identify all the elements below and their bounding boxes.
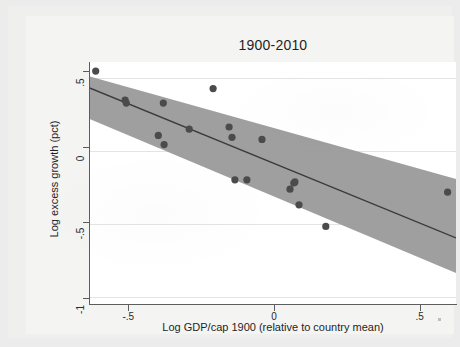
data-point <box>444 189 451 196</box>
data-point <box>155 132 162 139</box>
y-axis-title: Log excess growth (pct) <box>48 89 60 269</box>
scan-speck <box>438 318 441 321</box>
regression-fit-line <box>89 88 456 238</box>
data-point <box>186 126 193 133</box>
screenshot-root: 1900-2010 .50-.5-1 -.50.5 Log ex <box>0 0 460 347</box>
data-point <box>226 123 233 130</box>
data-point <box>228 134 235 141</box>
chart-figure: 1900-2010 .50-.5-1 -.50.5 Log ex <box>26 16 454 334</box>
y-tick-label--1: -1 <box>75 297 86 321</box>
plot-area <box>89 62 456 304</box>
data-point <box>231 176 238 183</box>
data-point <box>322 223 329 230</box>
chart-title: 1900-2010 <box>89 37 457 53</box>
scanned-page: 1900-2010 .50-.5-1 -.50.5 Log ex <box>8 6 452 338</box>
y-tick-label-0: 0 <box>75 146 86 170</box>
data-point <box>286 186 293 193</box>
x-axis-title: Log GDP/cap 1900 (relative to country me… <box>89 321 457 333</box>
data-point <box>243 176 250 183</box>
data-point <box>291 178 298 185</box>
data-point <box>210 85 217 92</box>
y-axis-line <box>89 62 90 305</box>
y-tick-label-.5: .5 <box>75 71 86 95</box>
data-point <box>123 100 130 107</box>
data-point <box>295 201 302 208</box>
data-point <box>92 68 99 75</box>
y-tick-label--.5: -.5 <box>75 222 86 246</box>
data-point <box>161 141 168 148</box>
data-point <box>258 136 265 143</box>
scatter-plot-canvas <box>89 62 456 304</box>
confidence-band <box>89 76 456 273</box>
data-point <box>160 100 167 107</box>
x-axis-line <box>89 304 457 305</box>
